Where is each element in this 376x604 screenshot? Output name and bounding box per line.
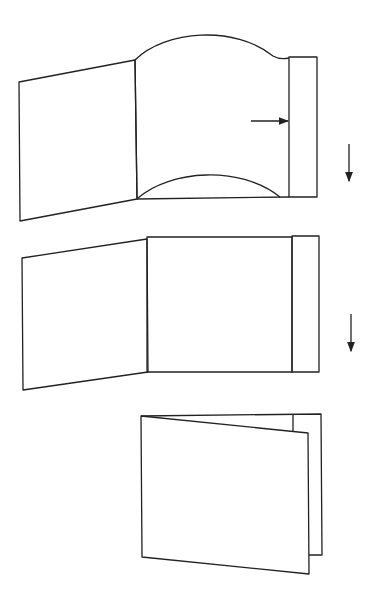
left-cover-panel (22, 239, 148, 390)
step-1-open-folder-bowed-page (19, 35, 349, 221)
bowed-page-top-curve (135, 35, 289, 60)
right-pocket-panel (289, 57, 317, 197)
left-cover-panel (19, 60, 137, 221)
step-3-closed-folder (141, 414, 322, 574)
bottom-edge (137, 197, 289, 199)
spine-line (135, 60, 137, 199)
bowed-page-bottom-curve (138, 175, 280, 198)
folding-diagram (0, 0, 376, 604)
step-2-open-folder-flat (22, 236, 351, 390)
middle-page-panel (147, 237, 292, 372)
right-pocket-panel (292, 236, 319, 372)
front-cover-panel (141, 416, 309, 574)
back-panel (141, 414, 322, 555)
